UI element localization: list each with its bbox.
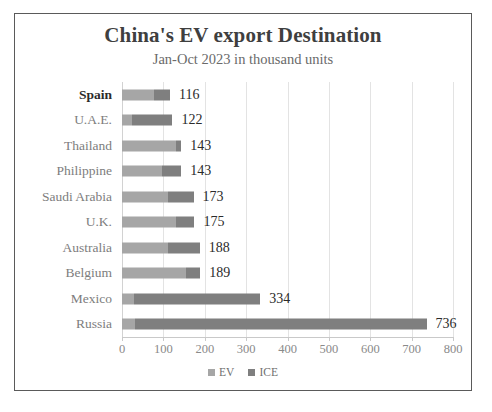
stacked-bar[interactable] [122,217,194,228]
bar-row: Australia188 [122,235,453,261]
stacked-bar[interactable] [122,268,200,279]
bar-segment-ev[interactable] [122,115,132,126]
legend-item-ice[interactable]: ICE [248,366,278,378]
bar-segment-ev[interactable] [122,166,162,177]
x-tick-100 [163,337,164,341]
category-label-russia: Russia [76,316,112,332]
bar-segment-ice[interactable] [162,166,181,177]
stacked-bar[interactable] [122,319,427,330]
bar-value-label: 334 [269,291,290,307]
legend-swatch-ev-icon [208,369,215,376]
bar-value-label: 188 [209,240,230,256]
x-tick-700 [412,337,413,341]
bar-row: Thailand143 [122,133,453,159]
x-tick-600 [370,337,371,341]
bar-row: Belgium189 [122,261,453,287]
bar-row: U.K.175 [122,210,453,236]
category-label-australia: Australia [63,240,113,256]
x-tick-label-800: 800 [444,342,463,357]
category-label-thailand: Thailand [64,138,112,154]
stacked-bar[interactable] [122,89,170,100]
x-tick-200 [205,337,206,341]
category-label-saudi-arabia: Saudi Arabia [42,189,112,205]
x-tick-label-400: 400 [278,342,297,357]
legend-label-ice: ICE [259,366,278,378]
legend-item-ev[interactable]: EV [208,366,234,378]
chart-frame: China's EV export Destination Jan-Oct 20… [14,13,472,391]
bar-segment-ev[interactable] [122,242,168,253]
bar-row: Mexico334 [122,286,453,312]
bar-segment-ev[interactable] [122,191,168,202]
x-tick-400 [288,337,289,341]
legend-swatch-ice-icon [248,369,255,376]
bar-row: Saudi Arabia173 [122,184,453,210]
category-label-belgium: Belgium [66,265,113,281]
bar-segment-ice[interactable] [186,268,200,279]
x-tick-0 [122,337,123,341]
chart-subtitle: Jan-Oct 2023 in thousand units [15,49,471,69]
x-tick-label-700: 700 [402,342,421,357]
stacked-bar[interactable] [122,242,200,253]
bar-segment-ice[interactable] [135,319,426,330]
category-label-u-k: U.K. [86,214,112,230]
bar-segment-ev[interactable] [122,89,154,100]
bar-segment-ice[interactable] [132,115,173,126]
x-tick-label-600: 600 [361,342,380,357]
bar-row: Philippine143 [122,159,453,185]
bar-value-label: 122 [181,112,202,128]
bar-segment-ev[interactable] [122,268,186,279]
bar-segment-ice[interactable] [154,89,170,100]
stacked-bar[interactable] [122,191,194,202]
stacked-bar[interactable] [122,115,172,126]
bar-value-label: 143 [190,138,211,154]
bar-value-label: 736 [436,316,457,332]
bar-segment-ev[interactable] [122,293,134,304]
stacked-bar[interactable] [122,166,181,177]
stacked-bar[interactable] [122,293,260,304]
x-tick-800 [453,337,454,341]
bar-segment-ice[interactable] [168,242,200,253]
category-label-spain: Spain [79,87,112,103]
x-tick-label-500: 500 [320,342,339,357]
bar-row: U.A.E.122 [122,108,453,134]
bar-segment-ev[interactable] [122,140,176,151]
bar-segment-ice[interactable] [134,293,261,304]
x-tick-500 [329,337,330,341]
bar-row: Spain116 [122,82,453,108]
x-tick-300 [246,337,247,341]
page-title: China's EV export Destination [15,22,471,48]
bar-value-label: 173 [203,189,224,205]
category-label-u-a-e: U.A.E. [74,112,112,128]
bar-segment-ev[interactable] [122,319,135,330]
bar-row: Russia736 [122,312,453,338]
x-tick-label-100: 100 [154,342,173,357]
plot-area: Spain116U.A.E.122Thailand143Philippine14… [122,82,453,337]
bar-segment-ice[interactable] [176,140,181,151]
x-tick-label-300: 300 [237,342,256,357]
legend-label-ev: EV [219,366,234,378]
stacked-bar[interactable] [122,140,181,151]
bar-segment-ev[interactable] [122,217,176,228]
x-axis-line [122,337,453,338]
x-tick-label-0: 0 [119,342,125,357]
x-axis-tick-labels: 0100200300400500600700800 [122,342,453,360]
category-label-philippine: Philippine [56,163,112,179]
chart-title-block: China's EV export Destination Jan-Oct 20… [15,22,471,69]
bar-value-label: 116 [179,87,199,103]
bar-segment-ice[interactable] [168,191,194,202]
gridline-800 [453,82,454,337]
bar-value-label: 143 [190,163,211,179]
bar-segment-ice[interactable] [176,217,195,228]
category-label-mexico: Mexico [71,291,112,307]
bar-value-label: 189 [209,265,230,281]
bar-value-label: 175 [203,214,224,230]
x-tick-label-200: 200 [195,342,214,357]
chart-legend: EV ICE [15,366,471,378]
